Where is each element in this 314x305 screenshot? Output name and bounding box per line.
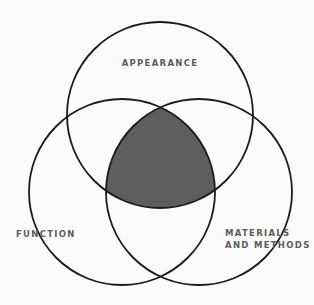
materials-label-line2: AND METHODS: [225, 239, 311, 251]
appearance-label: APPEARANCE: [122, 57, 199, 69]
materials-and-methods-label: MATERIALS AND METHODS: [225, 227, 311, 251]
function-label: FUNCTION: [16, 228, 76, 240]
triple-intersection-region: [67, 22, 253, 208]
venn-diagram-graphic: [0, 0, 314, 305]
venn-diagram: APPEARANCE FUNCTION MATERIALS AND METHOD…: [0, 0, 314, 305]
materials-label-line1: MATERIALS: [225, 227, 311, 239]
